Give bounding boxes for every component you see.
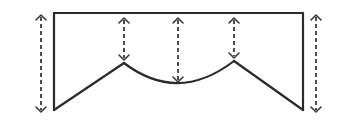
right-outer-drop-arrow-icon [311, 15, 321, 112]
right-peak-drop-arrow-icon [229, 18, 239, 58]
center-arc-edge [124, 61, 234, 83]
valance-measurement-diagram [0, 0, 344, 123]
center-drop-arrow-icon [173, 18, 183, 82]
measurement-arrows [36, 15, 321, 112]
left-slope-edge [54, 63, 124, 110]
right-slope-edge [234, 61, 303, 110]
left-peak-drop-arrow-icon [119, 18, 129, 60]
left-outer-drop-arrow-icon [36, 15, 46, 112]
